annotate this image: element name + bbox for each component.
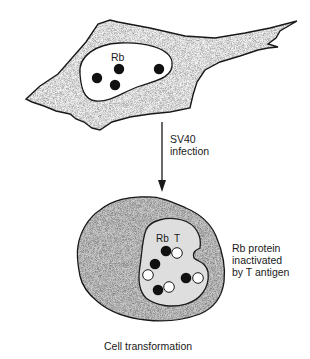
rb-protein-dot [110,80,120,90]
bottom-rb-label: Rb [156,233,169,245]
annotation-line-2: inactivated [232,254,289,266]
bottom-nucleus [139,218,208,306]
normal-cell [26,20,297,130]
top-rb-label: Rb [111,51,124,63]
transition-line-2: infection [170,145,209,157]
rb-protein-dot [161,246,172,257]
rb-protein-dot [181,273,192,284]
annotation-line-1: Rb protein [232,242,289,254]
t-antigen-dot [164,282,175,293]
rb-protein-dot [114,64,124,74]
bottom-t-label: T [174,233,180,245]
transition-line-1: SV40 [170,133,209,145]
t-antigen-dot [193,273,204,284]
rb-protein-dot [92,73,102,83]
rb-protein-dot [154,64,164,74]
transition-label: SV40 infection [170,133,209,157]
t-antigen-dot [143,270,154,281]
down-arrow-icon [158,122,166,192]
cell-diagram [0,0,310,359]
rb-protein-dot [150,259,161,270]
transformed-cell [77,197,224,321]
annotation-line-3: by T antigen [232,266,289,278]
caption: Cell transformation [104,340,192,352]
rb-protein-dot [153,285,164,296]
t-antigen-dot [172,248,183,259]
inactivation-annotation: Rb protein inactivated by T antigen [232,242,289,278]
